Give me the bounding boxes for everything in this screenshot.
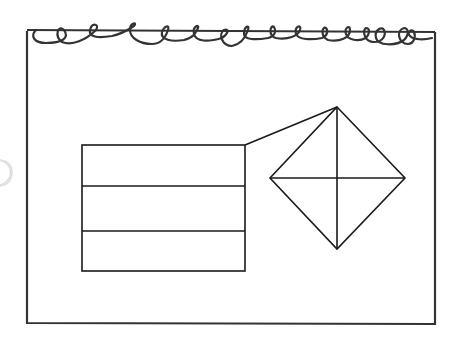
connector-line bbox=[245, 107, 337, 145]
notepad-top-edge bbox=[27, 30, 435, 32]
spiral-binding bbox=[33, 23, 432, 46]
striped-rectangle bbox=[82, 145, 245, 271]
diamond-shape bbox=[270, 107, 405, 249]
notepad-sketch bbox=[0, 0, 456, 342]
